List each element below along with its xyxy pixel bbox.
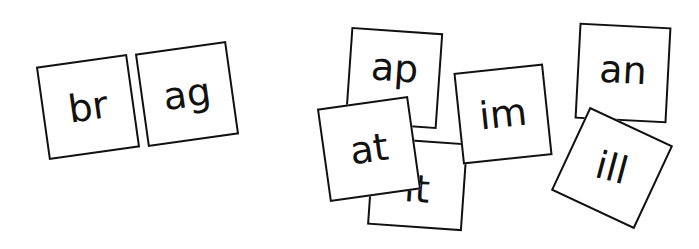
card-label: im — [477, 93, 528, 136]
card-ag[interactable]: ag — [135, 41, 239, 147]
card-label: at — [347, 128, 390, 171]
card-label: ill — [592, 146, 632, 191]
card-label: br — [66, 85, 111, 128]
card-ill[interactable]: ill — [551, 107, 673, 229]
card-label: ag — [161, 72, 213, 116]
card-at[interactable]: at — [317, 96, 421, 202]
card-label: an — [599, 50, 648, 90]
card-im[interactable]: im — [453, 64, 552, 165]
card-br[interactable]: br — [36, 54, 140, 160]
card-label: ap — [370, 47, 420, 88]
letter-cards-canvas: br ag ap it at im an ill — [0, 0, 699, 249]
